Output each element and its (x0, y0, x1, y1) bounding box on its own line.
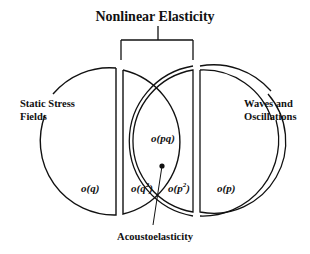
term-middle-left: o(q2) (131, 181, 153, 195)
venn-diagram: Nonlinear Elasticity Static Stress Field… (0, 0, 310, 254)
term-middle-right: o(p2) (168, 181, 190, 195)
term-right: o(p) (217, 182, 235, 195)
term-overlap: o(pq) (151, 132, 175, 145)
title: Nonlinear Elasticity (95, 9, 214, 24)
pointer-line (153, 166, 162, 225)
right-circle-outer-piece (200, 65, 286, 216)
right-circle-label-2: Oscillations (244, 111, 297, 122)
pointer-label: Acoustoelasticity (117, 231, 194, 242)
left-circle-label-1: Static Stress (20, 98, 75, 109)
left-circle-label-2: Fields (20, 111, 47, 122)
term-left: o(q) (81, 182, 99, 195)
left-circle-outer-piece (40, 68, 116, 215)
right-circle-label-1: Waves and (244, 98, 293, 109)
title-bracket (121, 26, 193, 60)
svg-text:o(p2): o(p2) (168, 181, 190, 195)
svg-text:o(q2): o(q2) (131, 181, 153, 195)
